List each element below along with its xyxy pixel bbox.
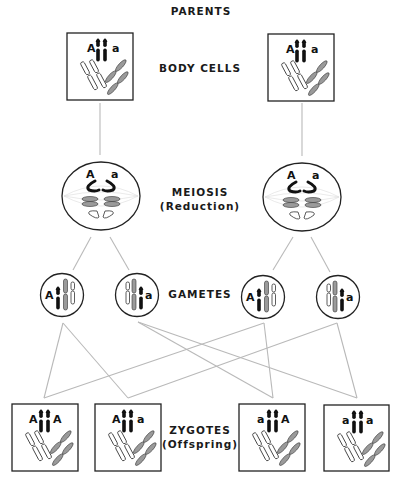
allele-label: a — [346, 291, 353, 304]
allele-label: a — [342, 414, 349, 427]
parent-left-body-cell: A a — [67, 33, 133, 100]
label-zygotes: ZYGOTES — [169, 424, 231, 436]
allele-label: A — [45, 289, 54, 302]
gamete-4: a — [317, 276, 360, 319]
label-gametes: GAMETES — [168, 288, 231, 300]
allele-label: a — [311, 43, 318, 56]
gamete-1: A — [41, 274, 84, 317]
connector-lines — [44, 103, 357, 398]
zygote-2: A a — [95, 404, 161, 471]
allele-label: A — [246, 291, 255, 304]
allele-label: a — [366, 414, 373, 427]
label-meiosis: MEIOSIS — [172, 186, 229, 198]
allele-label: A — [29, 413, 38, 426]
zygote-4: a a — [324, 405, 389, 471]
allele-label: A — [286, 43, 295, 56]
allele-label: A — [287, 169, 296, 182]
parent-right-body-cell: A a — [268, 34, 334, 101]
allele-label: A — [86, 168, 95, 181]
allele-label: A — [87, 42, 96, 55]
allele-label: a — [137, 413, 144, 426]
gamete-2: a — [116, 274, 159, 317]
label-meiosis-sub: (Reduction) — [160, 200, 240, 212]
meiosis-inheritance-diagram: PARENTS BODY CELLS MEIOSIS (Reduction) G… — [0, 0, 400, 494]
meiosis-left-cell: A a — [62, 162, 140, 230]
meiosis-right-cell: A a — [263, 163, 341, 231]
label-body-cells: BODY CELLS — [159, 62, 241, 74]
allele-label: a — [145, 289, 152, 302]
gamete-3: A — [242, 276, 285, 319]
allele-label: A — [281, 413, 290, 426]
allele-label: a — [112, 42, 119, 55]
zygote-1: A A — [12, 404, 78, 471]
label-zygotes-sub: (Offspring) — [162, 438, 238, 450]
allele-label: a — [312, 169, 319, 182]
label-parents: PARENTS — [171, 5, 232, 17]
allele-label: a — [111, 168, 118, 181]
zygote-3: a A — [239, 404, 305, 471]
allele-label: A — [53, 413, 62, 426]
allele-label: A — [112, 413, 121, 426]
allele-label: a — [257, 413, 264, 426]
